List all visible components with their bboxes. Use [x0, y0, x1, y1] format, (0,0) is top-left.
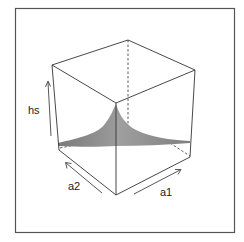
z-axis-label: hs	[28, 104, 40, 116]
box-top-face	[52, 40, 195, 103]
box-edge-bottom-right	[116, 157, 190, 195]
z-axis-arrow	[46, 81, 52, 136]
box-edge-right-vertical	[190, 70, 195, 157]
plot-frame	[16, 9, 235, 233]
y-axis-label: a2	[68, 180, 80, 192]
perspective-plot: hs a2 a1	[0, 0, 244, 242]
box-edge-left-vertical	[52, 65, 59, 150]
x-axis-label: a1	[160, 186, 172, 198]
hidden-edge-back-right	[170, 143, 190, 156]
surface	[58, 104, 190, 147]
surface-right-face	[116, 104, 190, 146]
surface-left-face	[58, 104, 116, 147]
